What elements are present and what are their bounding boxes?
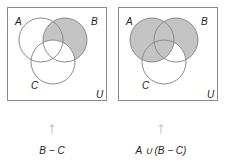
label-u: U bbox=[207, 89, 215, 100]
venn-diagrams: A B C U A B C U B − C A ∪ (B − C) bbox=[0, 0, 225, 163]
up-arrow-icon bbox=[50, 125, 54, 135]
label-a: A bbox=[14, 16, 22, 27]
label-c: C bbox=[142, 80, 150, 91]
label-u: U bbox=[96, 89, 104, 100]
caption-a-union-b-minus-c: A ∪ (B − C) bbox=[135, 145, 187, 156]
panel-b-minus-c: A B C U bbox=[8, 8, 107, 101]
panel-a-union-b-minus-c: A B C U bbox=[119, 8, 218, 101]
label-b: B bbox=[201, 16, 208, 27]
caption-b-minus-c: B − C bbox=[39, 145, 65, 156]
label-a: A bbox=[125, 16, 133, 27]
label-c: C bbox=[31, 80, 39, 91]
label-b: B bbox=[91, 16, 98, 27]
up-arrow-icon bbox=[159, 125, 163, 135]
